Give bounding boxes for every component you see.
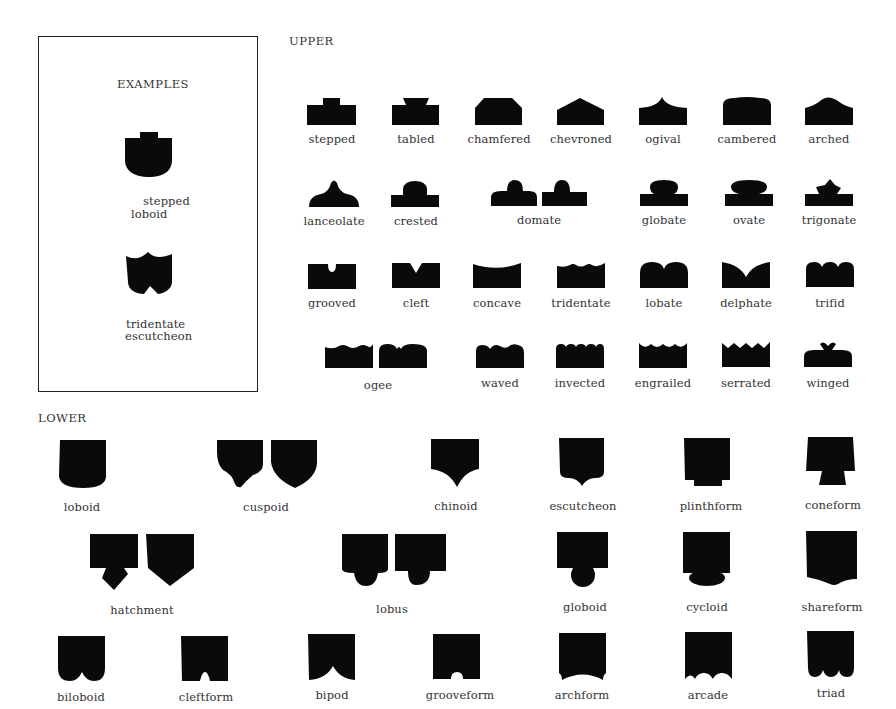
label-trifid: trifid [815, 296, 845, 310]
example-label-1a: stepped [143, 194, 190, 208]
label-triad: triad [817, 686, 846, 700]
tridentate-icon [557, 263, 605, 289]
winged-icon [804, 340, 852, 368]
label-invected: invected [555, 376, 605, 390]
label-lobate: lobate [646, 296, 683, 310]
label-lobus: lobus [376, 602, 408, 616]
label-tabled: tabled [397, 132, 434, 146]
upper-heading: UPPER [289, 34, 334, 48]
label-ogee: ogee [364, 378, 392, 392]
label-crested: crested [394, 214, 438, 228]
label-ogival: ogival [645, 132, 681, 146]
label-shareform: shareform [802, 600, 863, 614]
globoid-icon [557, 532, 609, 588]
concave-icon [473, 263, 521, 289]
stepped-loboid-example-icon [124, 132, 174, 178]
label-archform: archform [555, 688, 610, 702]
label-hatchment: hatchment [110, 603, 173, 617]
label-cleft: cleft [403, 296, 429, 310]
trifid-icon [806, 261, 854, 288]
biloboid-icon [58, 636, 106, 682]
lobus-icon [342, 533, 448, 588]
shareform-icon [806, 531, 858, 587]
cleftform-icon [181, 636, 229, 682]
grooveform-icon [433, 633, 481, 681]
bipod-icon [308, 633, 356, 681]
chinoid-icon [431, 439, 479, 489]
lanceolate-icon [309, 180, 359, 208]
hatchment-icon [90, 534, 196, 590]
tabled-icon [391, 98, 441, 126]
label-ovate: ovate [733, 213, 765, 227]
label-grooveform: grooveform [426, 688, 495, 702]
label-delphate: delphate [720, 296, 772, 310]
label-globate: globate [642, 213, 686, 227]
examples-title: EXAMPLES [117, 77, 189, 91]
delphate-icon [722, 261, 770, 289]
label-escutcheon: escutcheon [549, 499, 616, 513]
label-chamfered: chamfered [467, 132, 530, 146]
label-chevroned: chevroned [550, 132, 612, 146]
cycloid-icon [683, 532, 731, 587]
chamfered-icon [474, 98, 524, 126]
chevroned-icon [556, 98, 606, 126]
label-biloboid: biloboid [57, 690, 105, 704]
label-bipod: bipod [315, 688, 348, 702]
globate-icon [640, 179, 688, 207]
stepped-icon [307, 98, 357, 126]
ovate-icon [725, 179, 773, 207]
label-grooved: grooved [308, 296, 356, 310]
tridentate-escutcheon-example-icon [126, 252, 174, 296]
label-winged: winged [806, 376, 849, 390]
label-loboid: loboid [64, 500, 101, 514]
ogee-icon [325, 343, 429, 369]
domate-icon [491, 179, 587, 207]
lobate-icon [640, 261, 688, 289]
archform-icon [559, 633, 607, 681]
serrated-icon [722, 342, 770, 368]
lower-heading: LOWER [38, 411, 86, 425]
label-waved: waved [481, 376, 519, 390]
label-serrated: serrated [721, 376, 771, 390]
label-concave: concave [473, 296, 521, 310]
label-cycloid: cycloid [686, 600, 728, 614]
example-label-2b: escutcheon [125, 329, 192, 343]
label-coneform: coneform [805, 498, 861, 512]
label-tridentate: tridentate [551, 296, 610, 310]
engrailed-icon [639, 343, 687, 369]
label-globoid: globoid [563, 600, 607, 614]
loboid-icon [59, 440, 107, 489]
invected-icon [556, 343, 604, 369]
label-engrailed: engrailed [635, 376, 691, 390]
cleft-icon [392, 263, 440, 289]
label-lanceolate: lanceolate [303, 214, 364, 228]
label-stepped: stepped [309, 132, 356, 146]
label-arched: arched [809, 132, 850, 146]
example-label-1b: loboid [131, 207, 168, 221]
coneform-icon [806, 437, 856, 487]
plinthform-icon [684, 438, 732, 488]
label-cambered: cambered [718, 132, 777, 146]
label-chinoid: chinoid [434, 499, 478, 513]
trigonate-icon [805, 179, 853, 207]
arcade-icon [685, 632, 733, 680]
label-plinthform: plinthform [680, 499, 743, 513]
escutcheon-icon [559, 438, 605, 488]
waved-icon [476, 343, 524, 369]
label-cuspoid: cuspoid [243, 500, 289, 514]
crested-icon [391, 180, 441, 208]
ogival-icon [638, 97, 688, 126]
cuspoid-icon [217, 440, 321, 490]
label-arcade: arcade [688, 688, 728, 702]
label-trigonate: trigonate [802, 213, 857, 227]
arched-icon [804, 96, 854, 126]
grooved-icon [308, 264, 356, 290]
cambered-icon [722, 97, 772, 126]
triad-icon [807, 631, 855, 679]
label-domate: domate [517, 213, 561, 227]
label-cleftform: cleftform [179, 690, 233, 704]
